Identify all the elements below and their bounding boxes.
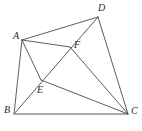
segment-a-d bbox=[22, 17, 98, 40]
geometry-figure: ABCDEF bbox=[0, 0, 142, 131]
vertex-label-a: A bbox=[13, 31, 19, 41]
vertex-label-f: F bbox=[74, 40, 80, 50]
segment-layer bbox=[14, 17, 128, 114]
segment-f-c bbox=[70, 47, 128, 114]
vertex-label-b: B bbox=[4, 105, 10, 115]
vertex-label-e: E bbox=[37, 85, 43, 95]
segment-a-f bbox=[22, 40, 70, 47]
vertex-label-d: D bbox=[98, 3, 105, 13]
figure-canvas bbox=[0, 0, 142, 131]
segment-b-d bbox=[14, 17, 98, 114]
segment-e-c bbox=[41, 80, 128, 114]
segment-d-c bbox=[98, 17, 128, 114]
segment-a-e bbox=[22, 40, 41, 80]
segment-a-b bbox=[14, 40, 22, 114]
vertex-label-c: C bbox=[131, 106, 138, 116]
